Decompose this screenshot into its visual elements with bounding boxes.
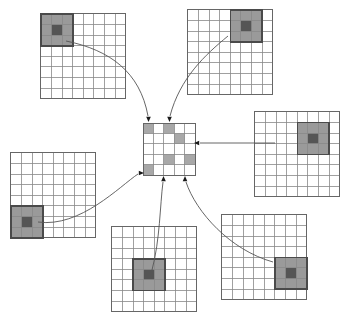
center-shaded-cell — [164, 154, 174, 164]
patch-center-cell — [52, 25, 63, 36]
center-shaded-cell — [174, 133, 184, 143]
patch-center-cell — [308, 133, 319, 144]
grid-left — [10, 152, 97, 239]
center-shaded-cell — [185, 154, 195, 164]
central-feature-map — [142, 122, 196, 176]
center-shaded-cell — [164, 123, 174, 133]
center-shaded-cell — [143, 165, 153, 175]
patch-center-cell — [22, 217, 33, 228]
diagram-canvas — [0, 0, 342, 313]
grid-lines — [112, 227, 197, 312]
grid-bottom-right — [221, 214, 308, 301]
grid-top-right — [187, 9, 274, 96]
grid-right — [254, 111, 341, 198]
patch-center-cell — [241, 21, 252, 32]
arrow-head-icon — [161, 176, 166, 181]
patch-center-cell — [286, 268, 297, 279]
arrow-head-icon — [183, 176, 188, 181]
center-shaded-cell — [143, 123, 153, 133]
grid-top-left — [40, 13, 127, 100]
patch-center-cell — [144, 269, 155, 280]
grid-bottom-center — [111, 226, 198, 313]
